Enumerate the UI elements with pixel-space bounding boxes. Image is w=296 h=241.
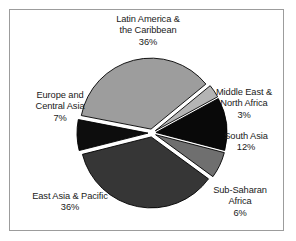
pie-label-line-1: Europe and: [10, 90, 110, 101]
pie-label-value: 7%: [10, 113, 110, 124]
pie-label-line-1: East Asia & Pacific: [8, 191, 132, 202]
pie-label-value: 36%: [92, 37, 204, 48]
pie-label-sub-saharan-africa: Sub-Saharan Africa 6%: [190, 185, 290, 219]
pie-label-value: 3%: [196, 110, 292, 121]
pie-label-latin-america-and-the-caribbean: Latin America & the Caribbean 36%: [92, 14, 204, 48]
pie-label-line-1: South Asia: [200, 131, 292, 142]
pie-label-line-2: Central Asia: [10, 101, 110, 112]
pie-label-line-2: the Caribbean: [92, 25, 204, 36]
pie-label-line-1: Sub-Saharan: [190, 185, 290, 196]
pie-label-line-2: Africa: [190, 196, 290, 207]
pie-label-middle-east-and-north-africa: Middle East & North Africa 3%: [196, 87, 292, 121]
pie-label-europe-and-central-asia: Europe and Central Asia 7%: [10, 90, 110, 124]
pie-chart-figure: Latin America & the Caribbean 36% Middle…: [0, 0, 296, 241]
pie-label-value: 12%: [200, 142, 292, 153]
pie-label-line-1: Latin America &: [92, 14, 204, 25]
pie-label-value: 6%: [190, 208, 290, 219]
pie-label-south-asia: South Asia 12%: [200, 131, 292, 154]
pie-label-line-1: Middle East &: [196, 87, 292, 98]
pie-label-east-asia-and-pacific: East Asia & Pacific 36%: [8, 191, 132, 214]
pie-label-value: 36%: [8, 202, 132, 213]
pie-label-line-2: North Africa: [196, 98, 292, 109]
